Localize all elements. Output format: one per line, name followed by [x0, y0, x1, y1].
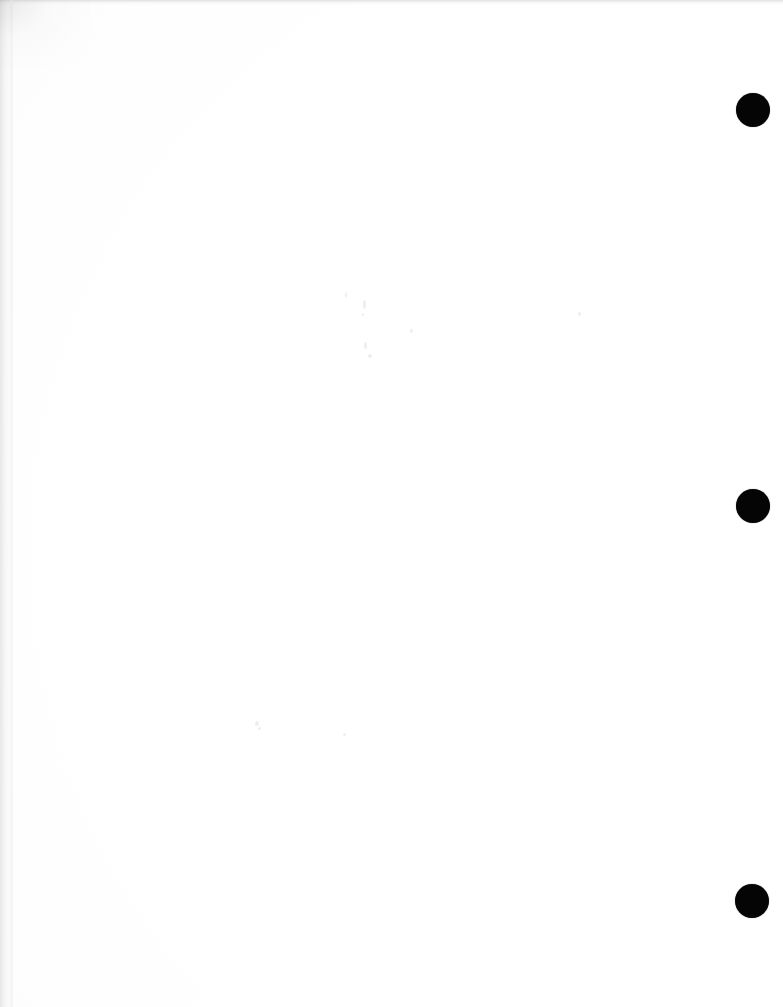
scanner-speck [345, 292, 347, 298]
top-edge-shadow [0, 0, 783, 6]
top-left-corner-shadow [0, 0, 90, 70]
scanned-page [0, 0, 783, 1007]
scanner-speck [578, 312, 581, 316]
punch-hole-top [736, 93, 770, 127]
scanner-speck [363, 300, 366, 309]
scanner-speck [258, 727, 261, 730]
scanner-speck [410, 329, 413, 333]
punch-hole-bottom [735, 884, 769, 918]
punch-hole-middle [736, 489, 770, 523]
scanner-speck [364, 342, 367, 349]
scanner-speck [368, 354, 372, 358]
left-edge-shadow [0, 0, 16, 1007]
scanner-speck [343, 733, 346, 736]
scanner-speck [362, 313, 364, 316]
paper-surface [0, 0, 783, 1007]
scanner-speck [255, 721, 259, 726]
